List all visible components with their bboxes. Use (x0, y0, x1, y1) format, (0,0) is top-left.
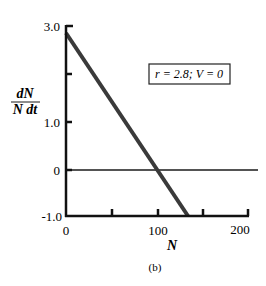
figure-caption: (b) (149, 261, 162, 274)
y-tick-label-3: 3.0 (44, 19, 60, 34)
x-axis-label: N (166, 238, 178, 253)
x-tick-label-100: 100 (148, 223, 168, 238)
x-tick-label-0: 0 (63, 223, 70, 238)
y-axis-label-denominator: N dt (12, 102, 39, 117)
annotation-text: r = 2.8; V = 0 (155, 67, 223, 81)
x-tick-label-200: 200 (230, 222, 250, 237)
y-axis-label-numerator: dN (16, 86, 34, 101)
chart: 3.0 1.0 0 -1.0 0 100 200 dN N dt N r = 2… (0, 0, 266, 286)
data-line (66, 33, 188, 216)
y-tick-label-neg1: -1.0 (41, 209, 62, 224)
y-tick-label-0: 0 (54, 163, 61, 178)
y-tick-label-1: 1.0 (44, 115, 60, 130)
